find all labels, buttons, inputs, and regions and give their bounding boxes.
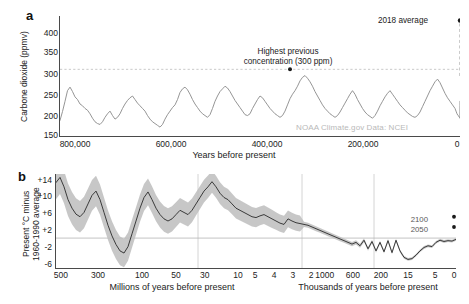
panel-a-xtick-200000: 200,000 xyxy=(348,140,379,149)
panel-a-2018-average-marker xyxy=(458,18,460,22)
panel-a-ytick-400: 400 xyxy=(24,29,58,38)
panel-b-xtick-ky-15: 15 xyxy=(403,271,412,280)
panel-b-xtick-my-300: 300 xyxy=(91,271,105,280)
panel-a-x-axis-line xyxy=(59,136,460,137)
panel-a-plot-area xyxy=(60,16,460,136)
panel-b-x-axis-label-right: Thousands of years before present xyxy=(268,282,468,292)
panel-a-ytick-150: 150 xyxy=(24,131,58,140)
panel-b-xtick-my-3: 3 xyxy=(290,271,295,280)
panel-b-xtick-my-100: 100 xyxy=(135,271,149,280)
panel-a-ytick-300: 300 xyxy=(24,70,58,79)
panel-b-ytick-minus6: -6 xyxy=(18,260,52,269)
panel-a-ytick-350: 350 xyxy=(24,48,58,57)
panel-b-xtick-my-500: 500 xyxy=(54,271,68,280)
panel-b-ytick-plus14: +14 xyxy=(18,176,52,185)
panel-b-xtick-my-10: 10 xyxy=(233,271,242,280)
panel-a-highest-previous-marker xyxy=(288,67,292,71)
panel-b-xtick-my-30: 30 xyxy=(200,271,209,280)
panel-a-xtick-600000: 600,000 xyxy=(156,140,187,149)
panel-a-co2-curve xyxy=(60,76,460,128)
panel-b-xtick-my-5: 5 xyxy=(253,271,258,280)
panel-b-xtick-ky-5: 5 xyxy=(433,271,438,280)
panel-a-2018-average-annotation: 2018 average xyxy=(328,16,428,26)
panel-b-2050-projection-marker xyxy=(452,225,456,229)
panel-a-x-axis-label: Years before present xyxy=(134,150,334,160)
panel-a-ytick-200: 200 xyxy=(24,112,58,121)
panel-b-temperature-chart: b Present °C minus 1960-1990 average +14… xyxy=(0,160,469,304)
panel-b-svg xyxy=(56,174,456,268)
panel-a-xtick-0: 0 xyxy=(455,140,460,149)
panel-a-highest-previous-annotation: Highest previous concentration (300 ppm) xyxy=(218,47,358,67)
panel-b-xtick-my-2: 2 xyxy=(309,271,314,280)
panel-b-plot-area xyxy=(56,174,456,268)
panel-b-2100-label: 2100 xyxy=(398,215,428,224)
panel-a-ytick-250: 250 xyxy=(24,91,58,100)
panel-a-xtick-400000: 400,000 xyxy=(252,140,283,149)
panel-b-xtick-ky-1000: 1000 xyxy=(315,271,334,280)
panel-b-2100-projection-marker xyxy=(452,215,456,219)
panel-b-ytick-plus6: +6 xyxy=(18,209,52,218)
panel-b-xtick-ky-200: 200 xyxy=(374,271,388,280)
panel-a-y-axis-line xyxy=(59,16,60,137)
panel-b-ytick-minus2: -2 xyxy=(18,243,52,252)
panel-b-ytick-plus10: +10 xyxy=(18,192,52,201)
panel-b-x-axis-label-left: Millions of years before present xyxy=(57,282,287,292)
panel-b-y-axis-line xyxy=(55,174,56,269)
panel-b-ytick-plus2: +2 xyxy=(18,226,52,235)
panel-b-2050-label: 2050 xyxy=(398,225,428,234)
panel-b-xtick-my-50: 50 xyxy=(171,271,180,280)
panel-b-xtick-my-4: 4 xyxy=(272,271,277,280)
panel-a-xtick-800000: 800,000 xyxy=(60,140,91,149)
panel-a-co2-chart: a Carbone dioxide (ppmv) 400 350 300 250… xyxy=(0,0,469,160)
panel-a-attribution: NOAA Climate.gov Data: NCEI xyxy=(296,123,408,132)
panel-a-svg xyxy=(60,16,460,136)
panel-b-xtick-ky-600: 600 xyxy=(346,271,360,280)
panel-b-uncertainty-band xyxy=(56,174,456,267)
panel-b-xtick-ky-0: 0 xyxy=(452,271,457,280)
panel-b-x-axis-line xyxy=(55,268,456,269)
